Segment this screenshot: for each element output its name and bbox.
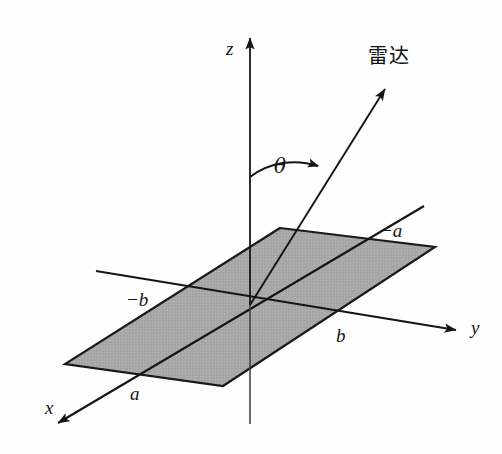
theta-angle-label: θ bbox=[274, 156, 286, 176]
figure-canvas: z 雷达 θ −a −b b y a x bbox=[0, 0, 502, 454]
z-axis-label: z bbox=[226, 39, 233, 58]
x-positive-extent-label: a bbox=[130, 384, 140, 403]
y-axis-label: y bbox=[471, 318, 479, 337]
coordinate-diagram-svg bbox=[0, 0, 502, 454]
radar-label: 雷达 bbox=[368, 46, 410, 66]
x-negative-extent-label: −a bbox=[380, 221, 402, 240]
x-axis-line bbox=[58, 206, 424, 423]
y-positive-extent-label: b bbox=[336, 326, 346, 345]
y-negative-extent-label: −b bbox=[126, 290, 148, 309]
x-axis-label: x bbox=[45, 398, 53, 417]
